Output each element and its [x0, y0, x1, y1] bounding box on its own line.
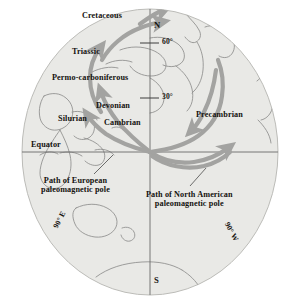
polar-wander-figure: Cretaceous Triassic Permo-carboniferous …: [0, 0, 301, 306]
european-path-caption-line2: paleomagnetic pole: [41, 185, 110, 194]
era-label-devonian: Devonian: [96, 101, 130, 110]
axis-label-north: N: [154, 21, 160, 31]
european-path-caption-line1: Path of European: [41, 176, 110, 185]
era-label-triassic: Triassic: [72, 47, 100, 56]
era-label-cretaceous: Cretaceous: [82, 11, 122, 20]
north-american-path-caption-line1: Path of North American: [146, 190, 233, 199]
globe-diagram: [0, 0, 301, 306]
north-american-path-caption: Path of North American paleomagnetic pol…: [146, 190, 233, 208]
era-label-permo-carboniferous: Permo-carboniferous: [52, 73, 128, 82]
equator-label: Equator: [31, 140, 61, 149]
era-label-cambrian: Cambrian: [104, 118, 141, 127]
north-american-path-caption-line2: paleomagnetic pole: [146, 199, 233, 208]
latitude-label-30: 30°: [162, 93, 173, 102]
axis-label-south: S: [154, 276, 159, 286]
era-label-precambrian: Precambrian: [196, 110, 243, 119]
era-label-silurian: Silurian: [58, 114, 87, 123]
european-path-caption: Path of European paleomagnetic pole: [41, 176, 110, 194]
latitude-label-60: 60°: [162, 38, 173, 47]
